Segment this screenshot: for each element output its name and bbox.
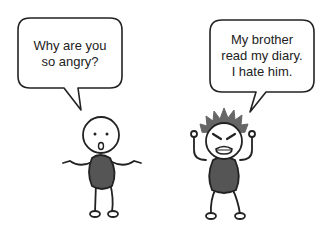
left-speech-line: Why are you: [18, 38, 122, 54]
right-speech-line: read my diary.: [210, 48, 314, 64]
right-speech-line: I hate him.: [210, 64, 314, 80]
right-speech-text: My brother read my diary. I hate him.: [210, 32, 314, 80]
angry-stick-figure: [191, 108, 255, 219]
left-speech-line: so angry?: [18, 54, 122, 70]
comic-panel: Why are you so angry? My brother read my…: [0, 0, 332, 240]
left-speech-text: Why are you so angry?: [18, 38, 122, 70]
right-speech-line: My brother: [210, 32, 314, 48]
confused-stick-figure: [63, 117, 141, 217]
